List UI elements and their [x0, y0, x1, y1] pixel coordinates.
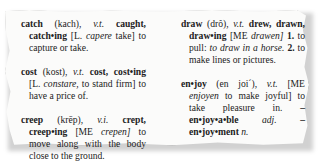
dictionary-column-right: draw (drô), v.t. drew, drawn, draw•ing […	[181, 18, 305, 138]
pronunciation: (drô),	[207, 18, 229, 29]
derived-form-2-pos: n.	[241, 126, 248, 137]
etymology-word: capere	[86, 30, 112, 41]
part-of-speech: v.t.	[93, 18, 104, 29]
etymology-word: constare,	[44, 78, 79, 89]
etymology-close: take]	[116, 30, 135, 41]
etymology-open: [ME	[230, 30, 248, 41]
etymology-close: to make joyful]	[225, 90, 292, 101]
headword: en•joy	[181, 78, 207, 89]
etymology-open: [L.	[71, 30, 82, 41]
dictionary-column-left: catch (kach), v.t. caught, catch•ing [L.…	[21, 18, 146, 162]
headword: creep	[21, 114, 43, 125]
part-of-speech: v.t.	[267, 78, 278, 89]
sense-1-example: to draw in a horse.	[210, 42, 285, 53]
etymology-close: to stand firm]	[82, 78, 136, 89]
pronunciation: (en joi´),	[216, 78, 257, 89]
part-of-speech: v.i.	[97, 114, 108, 125]
etymology-open: [ME	[75, 126, 93, 137]
etymology-word: crepen]	[101, 126, 130, 137]
entry-catch: catch (kach), v.t. caught, catch•ing [L.…	[21, 18, 146, 54]
entry-draw: draw (drô), v.t. drew, drawn, draw•ing […	[181, 18, 305, 66]
part-of-speech: v.t.	[73, 66, 84, 77]
inflected-forms: cost, cost•ing	[90, 66, 146, 77]
etymology-word: drawen]	[251, 30, 284, 41]
sense-number-1: 1.	[287, 30, 294, 41]
etymology-open: [ME	[287, 78, 305, 89]
pronunciation: (krēp),	[57, 114, 83, 125]
sense-number-2: 2.	[287, 42, 294, 53]
pronunciation: (kach),	[55, 18, 82, 29]
etymology-word: enjoyen	[189, 90, 219, 101]
headword: catch	[21, 18, 43, 29]
entry-enjoy: en•joy (en joi´), v.t. [ME enjoyen to ma…	[181, 78, 305, 138]
entry-creep: creep (krēp), v.i. crept, creep•ing [ME …	[21, 114, 146, 162]
derived-form-1-pos: adj.	[262, 114, 277, 125]
entry-cost: cost (kost), v.t. cost, cost•ing [L. con…	[21, 66, 146, 102]
part-of-speech: v.t.	[233, 18, 244, 29]
headword: draw	[181, 18, 202, 29]
pronunciation: (kost),	[43, 66, 68, 77]
headword: cost	[21, 66, 37, 77]
etymology-open: [L.	[29, 78, 40, 89]
